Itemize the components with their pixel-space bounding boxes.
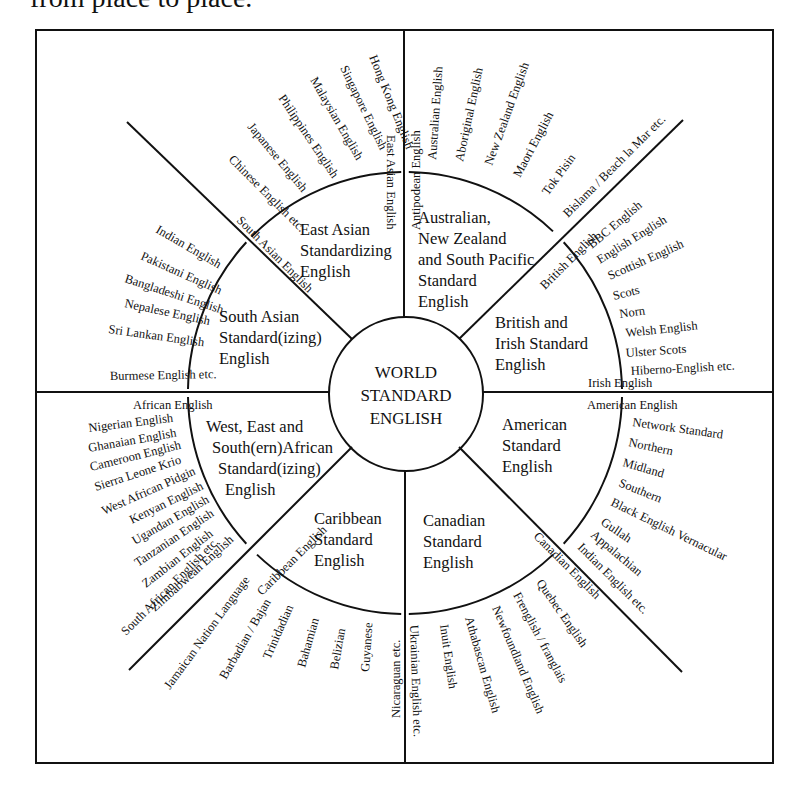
variety-label: Inuit English <box>437 623 460 690</box>
variety-label: Northern <box>627 435 675 458</box>
region-british: British and Irish Standard English <box>495 313 589 374</box>
region-label-line: Standardizing <box>300 241 392 260</box>
variety-label: Bislama / Beach la Mar etc. <box>560 112 668 220</box>
region-east-asian: East Asian Standardizing English <box>300 220 392 281</box>
region-label-line: West, East and <box>206 417 304 436</box>
region-label-line: Standard(izing) <box>218 459 321 478</box>
variety-label: Norn <box>618 303 646 321</box>
region-african: West, East and South(ern)African Standar… <box>206 417 333 499</box>
region-label-line: Standard <box>502 436 561 455</box>
region-label-line: and South Pacific <box>418 250 534 269</box>
region-label-line: English <box>225 480 276 499</box>
region-label-line: English <box>314 551 365 570</box>
region-label-line: British and <box>495 313 569 332</box>
region-label-line: South Asian <box>219 307 299 326</box>
world-english-circle-diagram: WORLD STANDARD ENGLISH East Asian Standa… <box>0 0 801 792</box>
variety-label: Bahamian <box>294 616 322 669</box>
variety-label: Burmese English etc. <box>110 367 217 383</box>
center-label-line-3: ENGLISH <box>370 409 443 428</box>
center-label-line-2: STANDARD <box>360 386 451 405</box>
variety-label: Nicaraguan etc. <box>389 640 403 718</box>
region-label-line: Standard <box>423 532 482 551</box>
ring-label-east-asian: East Asian English <box>384 135 398 230</box>
variety-label: Welsh English <box>625 318 699 340</box>
region-label-line: Standard <box>418 271 477 290</box>
variety-label: Sri Lankan English <box>108 322 206 349</box>
variety-label: Hiberno-English etc. <box>630 359 735 378</box>
region-south-asian: South Asian Standard(izing) English <box>219 307 322 368</box>
variety-label: Belizian <box>327 626 348 670</box>
center-label-line-1: WORLD <box>375 363 437 382</box>
region-caribbean: Caribbean Standard English <box>314 509 382 570</box>
region-label-line: Irish Standard <box>495 334 589 353</box>
ring-label-american: American English <box>587 398 678 412</box>
region-label-line: Canadian <box>423 511 485 530</box>
region-label-line: English <box>495 355 546 374</box>
region-label-line: Australian, <box>418 208 491 227</box>
variety-label: Tok Pisin <box>539 151 579 198</box>
variety-label: Ukrainian English etc. <box>407 625 425 738</box>
region-label-line: English <box>219 349 270 368</box>
region-label-line: East Asian <box>300 220 370 239</box>
variety-label: Athabascan English <box>462 615 503 715</box>
variety-label: Midland <box>621 455 666 480</box>
region-label-line: Caribbean <box>314 509 382 528</box>
variety-label: Aboriginal English <box>452 66 486 163</box>
variety-label: Scots <box>611 283 641 303</box>
region-label-line: English <box>502 457 553 476</box>
variety-label: Maori English <box>510 109 556 180</box>
region-label-line: American <box>502 415 567 434</box>
region-label-line: Standard(izing) <box>219 328 322 347</box>
region-label-line: New Zealand <box>418 229 507 248</box>
ring-label-irish: Irish English <box>588 376 653 390</box>
variety-label: Australian English <box>425 65 446 160</box>
region-label-line: English <box>423 553 474 572</box>
variety-label: Guyanese <box>358 622 375 673</box>
region-label-line: English <box>418 292 469 311</box>
region-canadian: Canadian Standard English <box>423 511 485 572</box>
variety-label: Ulster Scots <box>625 342 687 360</box>
region-australian: Australian, New Zealand and South Pacifi… <box>418 208 534 311</box>
ring-label-african: African English <box>133 398 213 412</box>
region-american: American Standard English <box>502 415 567 476</box>
region-label-line: South(ern)African <box>212 438 333 457</box>
